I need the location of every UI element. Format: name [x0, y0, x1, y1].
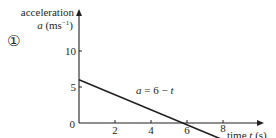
y-axis-label-word: acceleration [21, 6, 75, 18]
y-axis-label-unit: a (ms−1) [37, 19, 73, 32]
origin-label: 0 [70, 118, 76, 130]
equation-annotation: a = 6 − t [136, 84, 174, 96]
x-axis-arrow-icon [257, 120, 264, 126]
x-tick-label-2: 2 [112, 124, 118, 136]
y-axis-arrow-icon [76, 9, 82, 16]
x-tick-label-8: 8 [220, 122, 226, 134]
x-axis-label: time t (s) [227, 129, 267, 138]
y-tick-label-5: 5 [71, 81, 77, 93]
chart: ① acceleration a (ms−1) 5 10 0 2 4 6 8 t… [0, 0, 276, 138]
y-tick-label-10: 10 [65, 45, 77, 57]
figure-marker: ① [7, 32, 20, 50]
x-tick-label-4: 4 [148, 124, 154, 136]
